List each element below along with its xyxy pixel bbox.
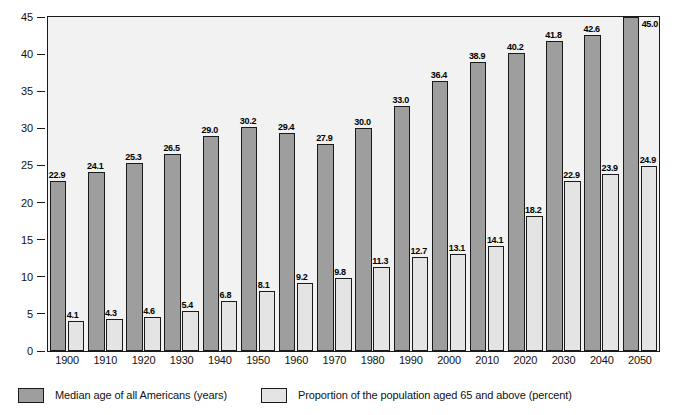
bar-median-age[interactable] — [241, 127, 258, 351]
bar-median-age[interactable] — [623, 17, 640, 351]
x-axis-tick-label: 1980 — [354, 354, 392, 366]
bar-value-label-median-age: 27.9 — [316, 133, 332, 143]
bar-value-label-proportion-65: 4.1 — [67, 310, 79, 320]
bar-median-age[interactable] — [432, 81, 449, 351]
bar-value-label-median-age: 29.0 — [202, 125, 218, 135]
bar-median-age[interactable] — [584, 35, 601, 351]
bar-value-label-median-age: 42.6 — [583, 24, 599, 34]
bar-proportion-65[interactable] — [602, 174, 619, 351]
bar-proportion-65[interactable] — [526, 216, 543, 351]
bar-value-label-proportion-65: 22.9 — [563, 170, 579, 180]
bar-value-label-median-age: 41.8 — [545, 30, 561, 40]
bar-proportion-65[interactable] — [68, 321, 85, 351]
bar-group: 22.94.1 — [48, 17, 86, 351]
bar-group: 45.024.9 — [621, 17, 659, 351]
x-axis-tick-label: 2000 — [430, 354, 468, 366]
bar-median-age[interactable] — [279, 133, 296, 351]
y-axis-tick-label: 40 — [21, 48, 33, 60]
bar-median-age[interactable] — [394, 106, 411, 351]
legend-item-median-age: Median age of all Americans (years) — [18, 388, 227, 403]
y-axis-tick-label: 30 — [21, 122, 33, 134]
bar-value-label-proportion-65: 11.3 — [372, 256, 388, 266]
y-axis-tick-label: 45 — [21, 11, 33, 23]
bar-proportion-65[interactable] — [182, 311, 199, 351]
bar-group: 36.413.1 — [430, 17, 468, 351]
bar-median-age[interactable] — [317, 144, 334, 351]
bar-median-age[interactable] — [126, 163, 143, 351]
bar-group: 26.55.4 — [163, 17, 201, 351]
y-axis-tick: 20 — [21, 197, 47, 209]
bar-median-age[interactable] — [546, 41, 563, 351]
x-axis-tick-label: 2050 — [621, 354, 659, 366]
bar-proportion-65[interactable] — [221, 301, 238, 351]
y-axis-tick: 10 — [21, 271, 47, 283]
x-axis-tick-label: 1950 — [239, 354, 277, 366]
chart-legend: Median age of all Americans (years) Prop… — [18, 385, 606, 405]
y-axis-tick-mark — [37, 165, 45, 166]
y-axis-tick: 15 — [21, 234, 47, 246]
bar-group: 40.218.2 — [506, 17, 544, 351]
bar-proportion-65[interactable] — [488, 246, 505, 351]
y-axis-tick: 30 — [21, 122, 47, 134]
bar-group: 25.34.6 — [124, 17, 162, 351]
x-axis-tick-label: 1930 — [163, 354, 201, 366]
x-axis-tick-label: 2030 — [544, 354, 582, 366]
legend-swatch-icon-median-age — [18, 388, 44, 403]
bar-value-label-median-age: 29.4 — [278, 122, 294, 132]
bar-value-label-proportion-65: 6.8 — [220, 290, 232, 300]
bar-proportion-65[interactable] — [373, 267, 390, 351]
bar-group: 42.623.9 — [583, 17, 621, 351]
bar-value-label-proportion-65: 12.7 — [411, 246, 427, 256]
bar-median-age[interactable] — [508, 53, 525, 351]
bar-value-label-proportion-65: 4.3 — [105, 308, 117, 318]
bar-proportion-65[interactable] — [335, 278, 352, 351]
y-axis-tick-label: 15 — [21, 234, 33, 246]
bar-group: 30.011.3 — [354, 17, 392, 351]
bar-value-label-median-age: 30.0 — [354, 117, 370, 127]
bar-proportion-65[interactable] — [259, 291, 276, 351]
legend-label-proportion-65: Proportion of the population aged 65 and… — [298, 389, 572, 401]
bar-group: 33.012.7 — [392, 17, 430, 351]
bar-median-age[interactable] — [355, 128, 372, 351]
y-axis-tick-label: 10 — [21, 271, 33, 283]
bar-median-age[interactable] — [203, 136, 220, 351]
bar-median-age[interactable] — [470, 62, 487, 351]
y-axis-tick: 40 — [21, 48, 47, 60]
bar-proportion-65[interactable] — [106, 319, 123, 351]
bar-proportion-65[interactable] — [641, 166, 658, 351]
y-axis-tick: 5 — [27, 308, 47, 320]
y-axis: 051015202530354045 — [0, 0, 47, 368]
bar-value-label-median-age: 26.5 — [163, 143, 179, 153]
bar-group: 24.14.3 — [86, 17, 124, 351]
y-axis-tick-mark — [37, 17, 45, 18]
bar-proportion-65[interactable] — [297, 283, 314, 351]
bar-median-age[interactable] — [88, 172, 105, 351]
bar-median-age[interactable] — [164, 154, 181, 351]
bar-proportion-65[interactable] — [144, 317, 161, 351]
bar-value-label-proportion-65: 14.1 — [487, 235, 503, 245]
y-axis-tick-label: 35 — [21, 85, 33, 97]
x-axis-tick-label: 1960 — [277, 354, 315, 366]
bar-value-label-median-age: 30.2 — [240, 116, 256, 126]
bar-value-label-proportion-65: 23.9 — [601, 163, 617, 173]
bar-median-age[interactable] — [50, 181, 67, 351]
bar-proportion-65[interactable] — [450, 254, 467, 351]
y-axis-tick: 45 — [21, 11, 47, 23]
x-axis-tick-label: 2010 — [468, 354, 506, 366]
y-axis-tick-label: 25 — [21, 159, 33, 171]
bar-value-label-proportion-65: 4.6 — [143, 306, 155, 316]
legend-label-median-age: Median age of all Americans (years) — [55, 389, 227, 401]
bar-value-label-proportion-65: 9.8 — [334, 267, 346, 277]
y-axis-tick-mark — [37, 351, 45, 352]
bar-value-label-median-age: 45.0 — [642, 19, 658, 29]
bar-group: 29.49.2 — [277, 17, 315, 351]
bar-proportion-65[interactable] — [412, 257, 429, 351]
y-axis-tick-mark — [37, 54, 45, 55]
x-axis-tick-label: 2040 — [583, 354, 621, 366]
legend-item-proportion-65: Proportion of the population aged 65 and… — [261, 388, 572, 403]
x-axis-tick-label: 1920 — [124, 354, 162, 366]
bar-value-label-median-age: 33.0 — [393, 95, 409, 105]
bar-proportion-65[interactable] — [564, 181, 581, 351]
bar-group: 30.28.1 — [239, 17, 277, 351]
bar-value-label-proportion-65: 13.1 — [449, 243, 465, 253]
